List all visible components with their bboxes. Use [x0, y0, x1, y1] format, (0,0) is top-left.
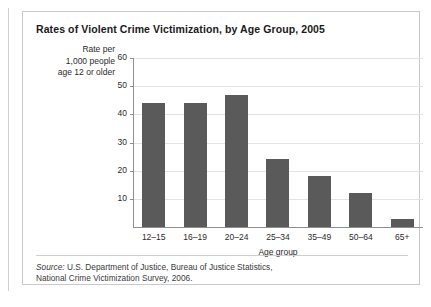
- bar[interactable]: [225, 95, 248, 227]
- figure-card: Rates of Violent Crime Victimization, by…: [22, 11, 420, 285]
- page-edge-rule: [8, 8, 9, 291]
- bar[interactable]: [266, 159, 289, 227]
- x-tick-label: 16–19: [174, 232, 215, 242]
- y-tick-label: 20: [103, 165, 127, 175]
- source-note: Source: U.S. Department of Justice, Bure…: [36, 262, 396, 284]
- y-tick-label: 10: [103, 193, 127, 203]
- y-tick-label: 60: [103, 52, 127, 62]
- x-tick-label: 65+: [382, 232, 423, 242]
- y-tick-label: 50: [103, 80, 127, 90]
- figure-title: Rates of Violent Crime Victimization, by…: [36, 23, 325, 35]
- bar-slot: [340, 58, 381, 227]
- bar-slot: [174, 58, 215, 227]
- bar-slot: [257, 58, 298, 227]
- bar-slot: [382, 58, 423, 227]
- y-tick-label: 30: [103, 137, 127, 147]
- bar-slot: [216, 58, 257, 227]
- bar-series: [133, 58, 423, 228]
- bar[interactable]: [184, 103, 207, 227]
- source-label: Source:: [36, 262, 65, 272]
- x-tick-label: 20–24: [216, 232, 257, 242]
- source-line-2: National Crime Victimization Survey, 200…: [36, 273, 192, 283]
- y-axis-title-line-3: age 12 or older: [29, 67, 115, 79]
- bar-slot: [133, 58, 174, 227]
- x-tick-label: 35–49: [299, 232, 340, 242]
- bar[interactable]: [308, 176, 331, 227]
- bar-chart: Rate per 1,000 people age 12 or older 10…: [23, 42, 421, 242]
- x-tick-label: 50–64: [340, 232, 381, 242]
- bar-slot: [299, 58, 340, 227]
- source-divider: [36, 255, 408, 256]
- bar[interactable]: [391, 219, 414, 227]
- bar[interactable]: [349, 193, 372, 227]
- x-tick-label: 12–15: [133, 232, 174, 242]
- plot-area: 102030405060 12–1516–1920–2425–3435–4950…: [133, 58, 423, 228]
- bar[interactable]: [142, 103, 165, 227]
- x-tick-label: 25–34: [257, 232, 298, 242]
- source-line-1: U.S. Department of Justice, Bureau of Ju…: [65, 262, 273, 272]
- y-tick-label: 40: [103, 108, 127, 118]
